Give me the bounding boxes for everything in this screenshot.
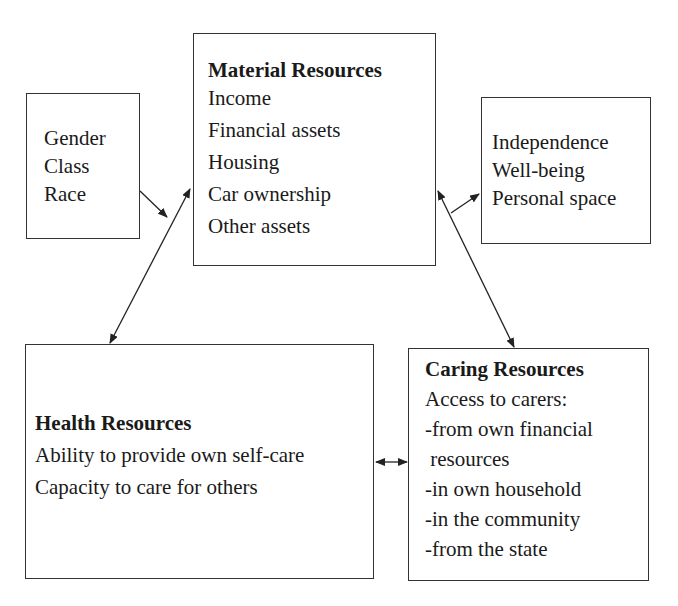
material-item: Financial assets [208, 116, 435, 144]
factor-gender: Gender [44, 124, 139, 152]
arrow-material-to-outcomes [451, 194, 479, 213]
factors-box: Gender Class Race [26, 93, 140, 239]
caring-item: resources [425, 445, 648, 473]
material-item: Car ownership [208, 180, 435, 208]
caring-resources-title: Caring Resources [425, 355, 648, 383]
outcome-independence: Independence [492, 128, 650, 156]
outcome-well-being: Well-being [492, 156, 650, 184]
outcomes-box: Independence Well-being Personal space [481, 97, 651, 244]
material-resources-title: Material Resources [208, 56, 435, 84]
caring-item: Access to carers: [425, 385, 648, 413]
caring-resources-box: Caring Resources Access to carers: -from… [408, 348, 649, 581]
material-item: Income [208, 84, 435, 112]
factor-class: Class [44, 152, 139, 180]
caring-item: -in own household [425, 475, 648, 503]
health-resources-title: Health Resources [35, 409, 373, 437]
caring-item: -in the community [425, 505, 648, 533]
caring-item: -from own financial [425, 415, 648, 443]
material-item: Other assets [208, 212, 435, 240]
outcome-personal-space: Personal space [492, 184, 650, 212]
health-item: Capacity to care for others [35, 473, 373, 501]
material-item: Housing [208, 148, 435, 176]
health-item: Ability to provide own self-care [35, 441, 373, 469]
caring-item: -from the state [425, 535, 648, 563]
factor-race: Race [44, 180, 139, 208]
arrow-factors-to-material [140, 191, 167, 217]
health-resources-box: Health Resources Ability to provide own … [25, 344, 374, 579]
material-resources-box: Material Resources Income Financial asse… [193, 33, 436, 266]
